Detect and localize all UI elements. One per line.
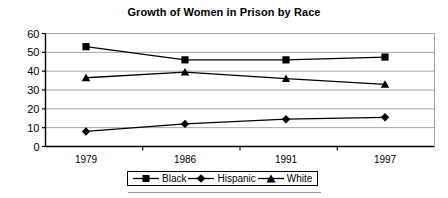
x-tick-label: 1991: [275, 154, 298, 165]
legend-label-white: White: [287, 174, 313, 184]
series-line: [86, 47, 385, 60]
y-axis-tick-labels: 0102030405060: [27, 28, 39, 153]
data-point-marker: [181, 120, 189, 128]
y-tick-label: 40: [27, 65, 39, 77]
bottom-divider: [128, 192, 321, 193]
plot-area: 0102030405060 1979198619911997: [0, 0, 448, 198]
series-line: [86, 72, 385, 84]
data-point-marker: [381, 113, 389, 121]
data-point-marker: [181, 56, 188, 63]
data-point-marker: [82, 127, 90, 135]
chart-container: Growth of Women in Prison by Race 010203…: [0, 0, 448, 198]
y-tick-label: 50: [27, 46, 39, 58]
legend-entry-white[interactable]: White: [258, 173, 313, 184]
gridlines: [46, 34, 435, 128]
x-axis-tick-labels: 1979198619911997: [75, 154, 397, 165]
data-point-marker: [282, 115, 290, 123]
legend-label-black: Black: [162, 174, 186, 184]
y-tick-label: 60: [27, 28, 39, 40]
y-tick-label: 0: [33, 141, 39, 153]
data-point-marker: [282, 56, 289, 63]
x-tick-label: 1979: [75, 154, 98, 165]
legend-key-diamond-icon: [188, 173, 214, 184]
y-tick-label: 30: [27, 84, 39, 96]
chart-legend: Black Hispanic White: [127, 171, 318, 186]
series-line: [86, 117, 385, 131]
legend-entry-black[interactable]: Black: [133, 173, 186, 184]
legend-entry-hispanic[interactable]: Hispanic: [188, 173, 255, 184]
series-hispanic: [82, 113, 389, 136]
legend-label-hispanic: Hispanic: [217, 174, 255, 184]
data-point-marker: [381, 53, 388, 60]
data-series-layer: [82, 43, 389, 136]
series-black: [82, 43, 388, 63]
x-tick-label: 1997: [374, 154, 397, 165]
y-tick-label: 10: [27, 122, 39, 134]
data-point-marker: [82, 43, 89, 50]
legend-key-triangle-icon: [258, 173, 284, 184]
x-tick-label: 1986: [174, 154, 197, 165]
y-tick-label: 20: [27, 103, 39, 115]
legend-key-square-icon: [133, 173, 159, 184]
